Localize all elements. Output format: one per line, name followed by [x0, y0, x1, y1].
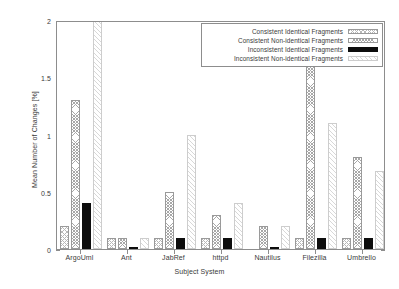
bar: [295, 238, 304, 249]
bar: [154, 238, 163, 249]
x-tick-label: Filezilla: [302, 254, 326, 261]
legend-item: Consistent Non-identical Fragments: [205, 36, 378, 45]
legend-swatch: [348, 47, 378, 52]
legend-item: Inconsistent Non-identical Fragments: [205, 54, 378, 63]
chart-legend: Consistent Identical FragmentsConsistent…: [201, 23, 383, 67]
bar: [364, 238, 373, 249]
bar: [201, 238, 210, 249]
x-tick-label: Nautilus: [254, 254, 280, 261]
legend-swatch: [348, 38, 378, 43]
legend-label: Consistent Non-identical Fragments: [238, 36, 343, 45]
bar: [107, 238, 116, 249]
y-tick-label: 0.5: [41, 189, 51, 196]
bar: [259, 226, 268, 249]
y-tick-label: 0: [47, 247, 51, 254]
y-axis-label: Mean Number of Changes [%]: [31, 60, 38, 220]
bar: [375, 171, 384, 249]
x-axis-label: Subject System: [0, 268, 399, 275]
x-tick-label: Ant: [121, 254, 132, 261]
bar: [176, 238, 185, 249]
legend-swatch: [348, 29, 378, 34]
bar: [281, 226, 290, 249]
legend-swatch: [348, 56, 378, 61]
legend-item: Consistent Identical Fragments: [205, 27, 378, 36]
bar: [82, 203, 91, 249]
legend-label: Inconsistent Non-identical Fragments: [234, 54, 343, 63]
y-tick-label: 1: [47, 132, 51, 139]
bar: [118, 238, 127, 249]
bar: [140, 238, 149, 249]
legend-item: Inconsistent Identical Fragments: [205, 45, 378, 54]
y-tick-label: 1.5: [41, 75, 51, 82]
chart-figure: Mean Number of Changes [%] 00.511.52 Arg…: [0, 0, 399, 289]
y-tick-mark-right: [381, 250, 385, 251]
y-tick-mark: [56, 250, 60, 251]
bar: [317, 238, 326, 249]
bar: [212, 215, 221, 249]
bar: [93, 21, 102, 249]
x-tick-label: Umbrello: [347, 254, 376, 261]
bar: [234, 203, 243, 249]
legend-label: Inconsistent Identical Fragments: [248, 45, 343, 54]
legend-label: Consistent Identical Fragments: [252, 27, 343, 36]
x-tick-label: ArgoUml: [66, 254, 94, 261]
bar: [306, 54, 315, 249]
bar: [223, 238, 232, 249]
x-tick-label: JabRef: [162, 254, 185, 261]
y-tick-label: 2: [47, 18, 51, 25]
bar: [129, 247, 138, 249]
bar: [342, 238, 351, 249]
bar: [60, 226, 69, 249]
bar: [328, 123, 337, 249]
bar: [187, 135, 196, 250]
bar: [165, 192, 174, 249]
bar: [71, 100, 80, 249]
bar: [270, 247, 279, 249]
x-tick-label: httpd: [212, 254, 228, 261]
bar: [353, 157, 362, 249]
